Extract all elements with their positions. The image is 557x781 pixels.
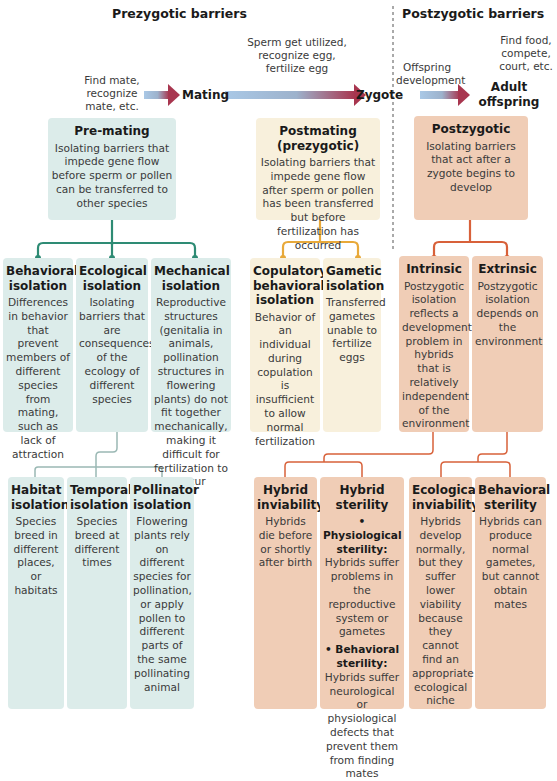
postzygotic-desc: Isolating barriers that act after a zygo… (417, 140, 525, 195)
stage-mating: Mating (182, 88, 229, 103)
behavioral-sterility-text: Hybrids suffer neurological or physiolog… (325, 671, 399, 780)
physiological-sterility-item: • Physiological sterility: Hybrids suffe… (323, 515, 401, 639)
postmating-title: Postmating (prezygotic) (259, 124, 377, 153)
habitat-isolation-desc: Species breed in different places, or ha… (11, 515, 61, 598)
ecological-isolation-title: Ecological isolation (79, 264, 145, 293)
stage-zygote: Zygote (356, 88, 403, 103)
intrinsic-box: Intrinsic Postzygotic isolation reflects… (399, 256, 469, 432)
hybrid-inviability-title: Hybrid inviability (257, 483, 314, 512)
premating-desc: Isolating barriers that impede gene flow… (51, 142, 173, 211)
ecological-inviability-box: Ecological inviability Hybrids develop n… (409, 477, 472, 709)
pollinator-isolation-title: Pollinator isolation (133, 483, 191, 512)
behavioral-sterility-box: Behavioral sterility Hybrids can produce… (475, 477, 546, 709)
copulatory-isolation-desc: Behavior of an individual during copulat… (253, 311, 317, 449)
hybrid-sterility-box: Hybrid sterility • Physiological sterili… (320, 477, 404, 709)
copulatory-isolation-box: Copulatory behavioral isolation Behavior… (250, 258, 320, 432)
step2-caption: Sperm get utilized, recognize egg, ferti… (242, 36, 352, 75)
gametic-isolation-title: Gametic isolation (326, 264, 378, 293)
postzygotic-box: Postzygotic Isolating barriers that act … (414, 116, 528, 220)
behavioral-sterility-item: • Behavioral sterility: Hybrids suffer n… (323, 643, 401, 781)
premating-connector (38, 220, 195, 258)
mechanical-isolation-title: Mechanical isolation (154, 264, 228, 293)
hybrid-inviability-box: Hybrid inviability Hybrids die before or… (254, 477, 317, 709)
mechanical-isolation-desc: Reproductive structures (genitalia in an… (154, 296, 228, 489)
extrinsic-title: Extrinsic (475, 262, 540, 277)
step1-caption: Find mate, recognize mate, etc. (72, 74, 152, 113)
ecological-inviability-title: Ecological inviability (412, 483, 469, 512)
extrinsic-box: Extrinsic Postzygotic isolation depends … (472, 256, 543, 432)
stage-adult-offspring: Adult offspring (464, 80, 554, 110)
postzygotic-connector (434, 220, 507, 258)
postmating-box: Postmating (prezygotic) Isolating barrie… (256, 118, 380, 220)
habitat-isolation-title: Habitat isolation (11, 483, 61, 512)
step4-caption: Find food, compete, court, etc. (496, 34, 556, 73)
behavioral-sterility-label: • Behavioral sterility: (325, 643, 399, 669)
pollinator-isolation-box: Pollinator isolation Flowering plants re… (130, 477, 194, 709)
arrow-to-adult (420, 84, 470, 106)
gametic-isolation-desc: Transferred gametes unable to fertilize … (326, 296, 378, 365)
postmating-desc: Isolating barriers that impede gene flow… (259, 156, 377, 253)
temporal-isolation-desc: Species breed at different times (70, 515, 124, 570)
temporal-isolation-box: Temporal isolation Species breed at diff… (67, 477, 127, 709)
physiological-sterility-text: Hybrids suffer problems in the reproduct… (325, 556, 399, 637)
ecological-isolation-box: Ecological isolation Isolating barriers … (76, 258, 148, 432)
physiological-sterility-label: • Physiological sterility: (323, 515, 402, 555)
premating-box: Pre-mating Isolating barriers that imped… (48, 118, 176, 220)
postzygotic-title: Postzygotic (417, 122, 525, 137)
behavioral-isolation-title: Behavioral isolation (6, 264, 70, 293)
gametic-isolation-box: Gametic isolation Transferred gametes un… (323, 258, 381, 432)
intrinsic-desc: Postzygotic isolation reflects a develop… (402, 280, 466, 432)
hybrid-inviability-desc: Hybrids die before or shortly after birt… (257, 515, 314, 570)
behavioral-isolation-box: Behavioral isolation Differences in beha… (3, 258, 73, 432)
copulatory-isolation-title: Copulatory behavioral isolation (253, 264, 317, 308)
ecological-inviability-desc: Hybrids develop normally, but they suffe… (412, 515, 469, 708)
behavioral-isolation-desc: Differences in behavior that prevent mem… (6, 296, 70, 462)
extrinsic-subconnector (441, 432, 510, 477)
temporal-isolation-title: Temporal isolation (70, 483, 124, 512)
mechanical-isolation-box: Mechanical isolation Reproductive struct… (151, 258, 231, 432)
premating-title: Pre-mating (51, 124, 173, 139)
ecological-isolation-desc: Isolating barriers that are consequences… (79, 296, 145, 406)
pollinator-isolation-desc: Flowering plants rely on different speci… (133, 515, 191, 694)
intrinsic-title: Intrinsic (402, 262, 466, 277)
extrinsic-desc: Postzygotic isolation depends on the env… (475, 280, 540, 349)
habitat-isolation-box: Habitat isolation Species breed in diffe… (8, 477, 64, 709)
prezygotic-header: Prezygotic barriers (112, 6, 247, 21)
step3-caption: Offspring development (396, 61, 458, 87)
behavioral-sterility-title: Behavioral sterility (478, 483, 543, 512)
arrow-to-zygote (225, 84, 366, 106)
behavioral-sterility-desc: Hybrids can produce normal gametes, but … (478, 515, 543, 612)
postzygotic-header: Postzygotic barriers (402, 6, 544, 21)
hybrid-sterility-title: Hybrid sterility (323, 483, 401, 512)
